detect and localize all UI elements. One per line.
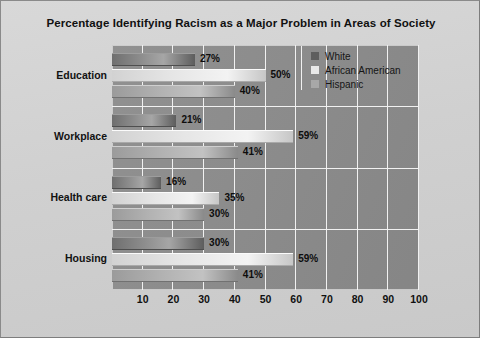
legend-item: White — [311, 50, 418, 62]
chart-page: Percentage Identifying Racism as a Major… — [0, 0, 480, 338]
x-tick-label: 60 — [290, 293, 302, 305]
x-axis: 102030405060708090100 — [112, 291, 419, 315]
bar — [112, 176, 161, 189]
bar-value-label: 30% — [209, 207, 229, 221]
category-label: Education — [0, 69, 107, 81]
bar-row: 35% — [112, 192, 419, 205]
bar — [112, 69, 266, 82]
bar-value-label: 16% — [166, 175, 186, 189]
bar-row: 16% — [112, 176, 419, 189]
bar — [112, 130, 293, 143]
bar — [112, 253, 293, 266]
legend-swatch-icon — [311, 66, 319, 74]
x-tick-label: 80 — [352, 293, 364, 305]
bar — [112, 269, 238, 282]
x-tick-label: 20 — [168, 293, 180, 305]
legend-label: African American — [325, 65, 401, 76]
bar — [112, 85, 235, 98]
bar-group: 21%59%41% — [112, 106, 419, 167]
bar — [112, 192, 219, 205]
bar-value-label: 41% — [243, 145, 263, 159]
bar-row: 41% — [112, 146, 419, 159]
x-tick-label: 90 — [382, 293, 394, 305]
bar-value-label: 40% — [240, 84, 260, 98]
legend-swatch-icon — [311, 80, 319, 88]
bar-value-label: 27% — [200, 52, 220, 66]
bar-value-label: 59% — [298, 252, 318, 266]
bar-row: 59% — [112, 253, 419, 266]
legend-item: African American — [311, 64, 418, 76]
bar-value-label: 35% — [224, 191, 244, 205]
bar-value-label: 59% — [298, 129, 318, 143]
bar-value-label: 50% — [271, 68, 291, 82]
legend-swatch-icon — [311, 52, 319, 60]
legend: WhiteAfrican AmericanHispanic — [301, 46, 418, 90]
x-tick-label: 100 — [410, 293, 428, 305]
bar-group: 30%59%41% — [112, 229, 419, 290]
bar-value-label: 21% — [181, 113, 201, 127]
legend-label: Hispanic — [325, 79, 363, 90]
legend-label: White — [325, 51, 351, 62]
bar — [112, 114, 176, 127]
bar — [112, 146, 238, 159]
bar-row: 41% — [112, 269, 419, 282]
page-title: Percentage Identifying Racism as a Major… — [1, 17, 480, 29]
bar — [112, 53, 195, 66]
x-tick-label: 30 — [198, 293, 210, 305]
category-label: Workplace — [0, 130, 107, 142]
x-tick-label: 50 — [260, 293, 272, 305]
bar-row: 21% — [112, 114, 419, 127]
bar-group: 16%35%30% — [112, 168, 419, 229]
bar-row: 30% — [112, 208, 419, 221]
bar-value-label: 41% — [243, 268, 263, 282]
x-tick-label: 10 — [137, 293, 149, 305]
legend-item: Hispanic — [311, 78, 418, 90]
bar — [112, 237, 204, 250]
bar-value-label: 30% — [209, 236, 229, 250]
x-tick-label: 40 — [229, 293, 241, 305]
bar-row: 59% — [112, 130, 419, 143]
plot-area: 27%50%40%21%59%41%16%35%30%30%59%41% Whi… — [112, 45, 419, 290]
category-label: Housing — [0, 252, 107, 264]
bar-row: 30% — [112, 237, 419, 250]
category-label: Health care — [0, 191, 107, 203]
bar — [112, 208, 204, 221]
x-tick-label: 70 — [321, 293, 333, 305]
